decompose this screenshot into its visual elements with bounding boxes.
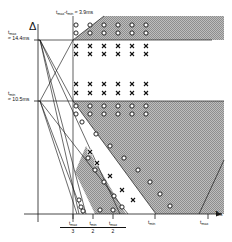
marker-series-x-markers-below-tmax [73,43,148,56]
fan-line-tmax-3 [40,40,86,214]
tmax-value: ≈ 14.4ms [8,35,29,41]
fan-line-tmin-2 [40,101,77,214]
marker-circle [144,31,148,35]
x-axis-ticks [73,214,208,219]
marker-circle [81,209,85,213]
marker-circle [88,112,92,116]
marker-circle [88,31,92,35]
marker-circle [116,31,120,35]
marker-circle [74,23,78,27]
marker-circle [108,144,112,148]
figure-canvas: Δ tmax ≈ 14.4ms tmin ≈ 10.5ms tmax-tmin … [0,0,232,242]
plot-svg [0,0,232,242]
marker-circle [130,23,134,27]
x-axis-label: Tclk [215,211,223,217]
marker-circle [122,156,126,160]
marker-circle [102,104,106,108]
marker-circle [77,198,81,202]
tick-tmin-sub: min [149,222,155,226]
marker-circle [98,208,102,212]
tick-tmax-sub: max [201,222,208,226]
marker-circle [116,104,120,108]
marker-circle [102,180,106,184]
marker-circle [144,23,148,27]
marker-circle [93,168,97,172]
marker-circle [144,112,148,116]
frac-num-3: tmax [100,220,126,228]
marker-circle [130,104,134,108]
marker-circle [136,168,140,172]
marker-series-x-markers-above-tmin [73,81,148,95]
y-axis-ticks [34,40,40,101]
x-tick-label-tmax-2: tmax 2 [100,220,126,234]
annot-equals: ≈ 3.9ms [75,9,93,15]
y-tick-label-tmax: tmax ≈ 14.4ms [8,30,29,42]
marker-circle [80,120,84,124]
marker-circle [88,104,92,108]
marker-circle [102,31,106,35]
shaded-upper-band [73,16,224,40]
top-annotation: tmax-tmin ≈ 3.9ms [56,10,93,16]
marker-circle [94,132,98,136]
y-axis-symbol: Δ [29,20,36,32]
tmin-value: ≈ 10.5ms [8,96,29,102]
marker-circle [102,112,106,116]
x-tick-label-tmax: tmax [200,220,208,226]
x-tick-label-tmin: tmin [148,220,155,226]
marker-circle [111,208,115,212]
frac-den-3: 2 [100,228,126,234]
marker-circle [130,112,134,116]
marker-circle [102,23,106,27]
marker-circle [120,205,124,209]
marker-circle [116,112,120,116]
marker-circle [144,104,148,108]
marker-circle [74,112,78,116]
marker-circle [74,31,78,35]
marker-circle [168,204,172,208]
marker-circle [116,23,120,27]
marker-circle [74,104,78,108]
marker-circle [148,180,152,184]
marker-circle [112,194,116,198]
x-axis-label-sub: clk [218,213,222,217]
fan-line-tmin-3 [40,101,83,214]
marker-circle [86,156,90,160]
marker-circle [79,205,83,209]
annot-sub-b: min [67,12,73,16]
marker-circle [130,31,134,35]
marker-circle [158,192,162,196]
marker-circle [88,23,92,27]
y-tick-label-tmin: tmin ≈ 10.5ms [8,91,29,103]
